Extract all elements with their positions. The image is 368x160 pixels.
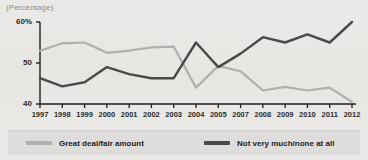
x-axis-tick-label: 2008 xyxy=(255,110,272,119)
x-axis-tick-label: 2007 xyxy=(232,110,249,119)
x-axis-tick-label: 2004 xyxy=(188,110,205,119)
y-axis-tick-label: 50 xyxy=(6,58,32,67)
y-axis-tick-label: 60% xyxy=(6,17,32,26)
legend-item-2[interactable]: Not very much/none at all xyxy=(204,136,334,150)
x-axis-tick-label: 2005 xyxy=(210,110,227,119)
x-axis-tick-label: 1997 xyxy=(32,110,49,119)
line-chart-svg xyxy=(0,0,368,125)
x-axis-tick-label: 2010 xyxy=(299,110,316,119)
x-axis-tick-label: 1999 xyxy=(76,110,93,119)
chart-container: (Percentage) 405060%19971998199920002001… xyxy=(0,0,368,160)
series-line-1 xyxy=(40,43,352,103)
x-axis-tick-label: 2000 xyxy=(99,110,116,119)
plot-area: 405060%199719981999200020012002200320042… xyxy=(0,0,368,125)
y-axis-tick-label: 40 xyxy=(6,99,32,108)
x-axis-tick-label: 2009 xyxy=(277,110,294,119)
x-axis-tick-label: 2012 xyxy=(344,110,361,119)
series-line-2 xyxy=(40,22,352,86)
chart-legend: Great deal/fair amountNot very much/none… xyxy=(8,130,360,155)
legend-swatch-icon xyxy=(26,141,52,145)
x-axis-tick-label: 1998 xyxy=(54,110,71,119)
legend-label: Not very much/none at all xyxy=(237,139,334,148)
x-axis-tick-label: 2003 xyxy=(165,110,182,119)
legend-item-1[interactable]: Great deal/fair amount xyxy=(26,136,144,150)
x-axis-tick-label: 2001 xyxy=(121,110,138,119)
legend-label: Great deal/fair amount xyxy=(59,139,144,148)
x-axis-tick-label: 2002 xyxy=(143,110,160,119)
legend-swatch-icon xyxy=(204,141,230,145)
x-axis-tick-label: 2011 xyxy=(322,110,338,119)
